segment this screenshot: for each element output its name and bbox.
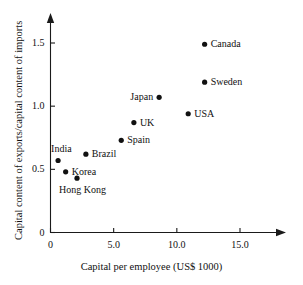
y-axis-arrow-icon bbox=[47, 13, 54, 23]
axes-group bbox=[47, 13, 286, 236]
data-point-marker[interactable] bbox=[63, 169, 68, 174]
x-axis-arrow-icon bbox=[276, 229, 286, 236]
data-point-marker[interactable] bbox=[202, 42, 207, 47]
data-point-marker[interactable] bbox=[186, 111, 191, 116]
data-point-marker[interactable] bbox=[55, 158, 60, 163]
y-tick-label: 1.0 bbox=[32, 101, 45, 111]
data-point-label: Korea bbox=[72, 167, 96, 177]
data-point-marker[interactable] bbox=[83, 152, 88, 157]
plot-canvas bbox=[0, 0, 303, 285]
x-tick-label: 0 bbox=[48, 240, 53, 250]
x-tick-label: 10.0 bbox=[168, 240, 186, 250]
data-point-marker[interactable] bbox=[202, 80, 207, 85]
y-tick-label: 0.5 bbox=[32, 164, 45, 174]
data-point-label: USA bbox=[194, 109, 214, 119]
data-point-marker[interactable] bbox=[131, 120, 136, 125]
y-axis-title: Capital content of exports/capital conte… bbox=[14, 21, 25, 240]
data-point-marker[interactable] bbox=[157, 95, 162, 100]
scatter-chart-figure: 05.010.015.000.51.01.5 IndiaKoreaHong Ko… bbox=[0, 0, 303, 285]
data-point-label: Canada bbox=[211, 39, 241, 49]
data-point-label: Brazil bbox=[92, 149, 116, 159]
data-point-label: UK bbox=[140, 118, 154, 128]
data-point-label: Spain bbox=[127, 135, 150, 145]
y-tick-label: 0 bbox=[40, 228, 45, 238]
data-points-group bbox=[55, 42, 207, 181]
data-point-marker[interactable] bbox=[119, 138, 124, 143]
data-point-label: Sweden bbox=[211, 77, 243, 87]
x-tick-label: 5.0 bbox=[107, 240, 120, 250]
data-point-label: Hong Kong bbox=[59, 185, 106, 195]
data-point-label: India bbox=[51, 144, 72, 154]
y-tick-label: 1.5 bbox=[32, 38, 45, 48]
data-point-label: Japan bbox=[130, 92, 153, 102]
x-tick-label: 15.0 bbox=[231, 240, 249, 250]
x-axis-title: Capital per employee (US$ 1000) bbox=[0, 262, 303, 273]
